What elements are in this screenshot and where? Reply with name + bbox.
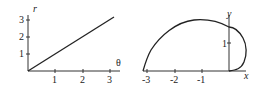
y-tick-label-1: 1: [222, 38, 227, 49]
y-axis-label: y: [226, 8, 232, 19]
x-tick-label-neg2: -2: [170, 74, 178, 85]
theta-axis-label: θ: [116, 57, 121, 68]
left-chart: 1 2 3 1 2 3 r θ: [19, 3, 121, 85]
r-tick-label-1: 1: [19, 48, 24, 59]
polar-curve: [143, 20, 246, 71]
r-tick-label-3: 3: [19, 14, 24, 25]
line-r-equals-theta: [28, 17, 114, 71]
right-chart: -3 -2 -1 1 y x: [142, 8, 249, 85]
r-axis-label: r: [33, 3, 37, 14]
theta-tick-label-2: 2: [80, 74, 85, 85]
x-axis-label: x: [243, 70, 249, 81]
x-tick-label-neg3: -3: [142, 74, 150, 85]
theta-tick-label-1: 1: [52, 74, 57, 85]
theta-tick-label-3: 3: [107, 74, 112, 85]
figure: 1 2 3 1 2 3 r θ -3 -2 -1 1 y x: [0, 0, 265, 95]
r-tick-label-2: 2: [19, 31, 24, 42]
x-tick-label-neg1: -1: [197, 74, 205, 85]
